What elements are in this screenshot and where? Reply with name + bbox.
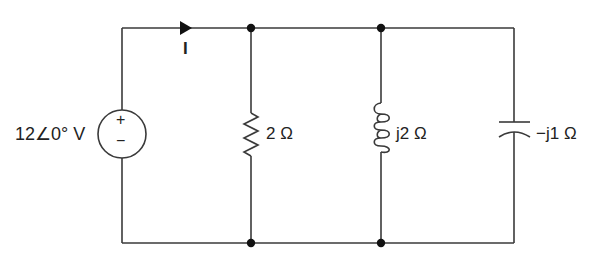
source-label: 12∠0° V [15, 125, 85, 143]
node-dot [377, 239, 385, 247]
inductor-label: j2 Ω [396, 125, 427, 142]
resistor-label: 2 Ω [266, 125, 293, 142]
resistor-icon [244, 113, 258, 156]
source-plus-sign: + [116, 112, 125, 128]
node-dot [377, 24, 385, 32]
capacitor-label: −j1 Ω [536, 125, 577, 142]
circuit-canvas [0, 0, 594, 265]
node-dot [247, 24, 255, 32]
current-arrow-icon [180, 21, 192, 35]
node-dot [247, 239, 255, 247]
current-label: I [183, 40, 188, 57]
inductor-icon [374, 103, 389, 152]
source-minus-sign: − [116, 133, 125, 149]
